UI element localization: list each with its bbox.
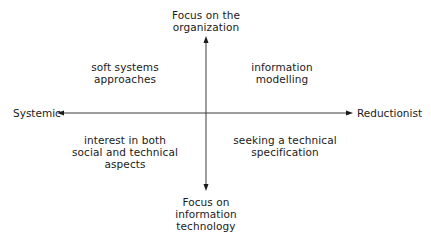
quadrant-top-left-label: soft systems approaches	[75, 61, 175, 85]
quadrant-bottom-left-label: interest in both social and technical as…	[65, 134, 185, 170]
quadrant-bottom-right-label: seeking a technical specification	[230, 134, 340, 158]
axis-top-label: Focus on the organization	[156, 9, 256, 33]
quadrant-top-right-label: information modelling	[232, 61, 332, 85]
arrow-right-icon	[346, 111, 353, 116]
axis-right-label: Reductionist	[357, 107, 422, 119]
axis-bottom-label: Focus on information technology	[156, 196, 256, 232]
axis-left-label: Systemic	[13, 107, 61, 119]
arrow-down-icon	[204, 184, 209, 191]
arrow-up-icon	[204, 36, 209, 43]
